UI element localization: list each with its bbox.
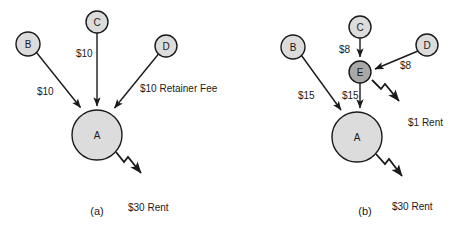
node-c-b-label: C bbox=[356, 22, 363, 33]
node-e-b-label: E bbox=[357, 67, 364, 78]
node-b-a-label: B bbox=[25, 39, 32, 50]
node-d-a-label: D bbox=[162, 41, 169, 52]
outflow-a-rent-arrow bbox=[116, 152, 141, 173]
node-b-b-label: B bbox=[290, 42, 297, 53]
edge-label-d-to-e: $8 bbox=[400, 60, 412, 71]
edge-d-to-e bbox=[375, 51, 418, 69]
outflow-label-a-rent: $30 Rent bbox=[128, 202, 169, 213]
node-c-a-label: C bbox=[93, 17, 100, 28]
panel-a-caption: (a) bbox=[90, 205, 103, 217]
edge-label-c-to-e: $8 bbox=[339, 44, 351, 55]
edge-label-d-to-a: $10 Retainer Fee bbox=[140, 83, 218, 94]
outflow-a-rent-arrow-b bbox=[376, 154, 402, 176]
edge-label-b-to-a: $10 bbox=[37, 86, 54, 97]
edge-b-to-a bbox=[37, 53, 81, 108]
panel-a: B C D A $10 $10 $10 Retainer Fee $30 Ren… bbox=[16, 11, 218, 217]
panel-b-caption: (b) bbox=[358, 205, 371, 217]
outflow-label-e-rent: $1 Rent bbox=[408, 117, 443, 128]
panel-b: B C D E A $8 $8 $15 $15 $1 Rent $30 Rent… bbox=[281, 16, 443, 217]
edge-label-b-to-a-b: $15 bbox=[298, 90, 315, 101]
flow-diagram: B C D A $10 $10 $10 Retainer Fee $30 Ren… bbox=[0, 0, 459, 229]
node-a-a-label: A bbox=[94, 130, 101, 141]
edge-b-to-a-b bbox=[302, 56, 342, 111]
edge-d-to-a bbox=[115, 54, 159, 108]
outflow-e-rent-arrow bbox=[372, 80, 399, 101]
edge-label-e-to-a: $15 bbox=[342, 90, 359, 101]
figure-root: B C D A $10 $10 $10 Retainer Fee $30 Ren… bbox=[0, 0, 459, 229]
node-a-b-label: A bbox=[354, 132, 361, 143]
edge-label-c-to-a: $10 bbox=[76, 48, 93, 59]
outflow-label-a-rent-b: $30 Rent bbox=[392, 201, 433, 212]
node-d-b-label: D bbox=[423, 40, 430, 51]
